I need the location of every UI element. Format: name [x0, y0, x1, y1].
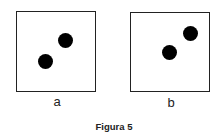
- panel-a-dot-upper: [58, 33, 73, 48]
- panel-b-dot-lower: [162, 45, 177, 60]
- figure-caption: Figura 5: [74, 121, 154, 132]
- panel-b-label: b: [161, 95, 181, 110]
- panel-a-box: [16, 11, 96, 92]
- panel-b-dot-upper: [183, 26, 198, 41]
- panel-a-dot-lower: [38, 54, 53, 69]
- panel-a-label: a: [47, 94, 67, 109]
